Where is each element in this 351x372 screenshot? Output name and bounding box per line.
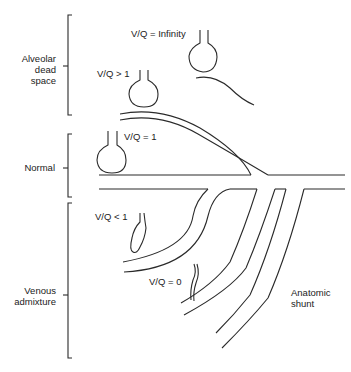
capillary-venous-admixture <box>123 189 230 272</box>
label-line: admixture <box>4 296 56 307</box>
vq-greater-label: V/Q > 1 <box>97 68 129 79</box>
vq-equal-one-label: V/Q = 1 <box>124 131 156 142</box>
label-line: Anatomic <box>291 287 331 298</box>
capillary-normal <box>99 175 345 189</box>
bracket-alveolar <box>63 15 72 115</box>
bracket-normal <box>63 134 72 197</box>
vq-infinity-label: V/Q = Infinity <box>131 28 186 39</box>
anatomic-shunt-vessel <box>216 189 304 348</box>
label-line: dead <box>10 64 56 75</box>
label-venous-admixture: Venous admixture <box>4 285 56 307</box>
alveolus-vq-greater-icon <box>129 70 158 107</box>
anatomic-shunt-label: Anatomic shunt <box>291 287 331 309</box>
label-line: Venous <box>4 285 56 296</box>
alveolus-vq-less-icon <box>131 213 146 252</box>
alveolus-vq-zero-icon <box>191 264 199 301</box>
label-line: shunt <box>291 298 331 309</box>
bracket-venous <box>63 203 72 358</box>
label-line: Alveolar <box>10 53 56 64</box>
capillary-dead-space <box>120 112 268 175</box>
alveolus-vq-infinity-icon <box>189 30 254 105</box>
label-normal: Normal <box>10 162 55 173</box>
vq-less-label: V/Q < 1 <box>95 211 127 222</box>
label-alveolar-dead-space: Alveolar dead space <box>10 53 56 86</box>
label-line: Normal <box>10 162 55 173</box>
vq-zero-label: V/Q = 0 <box>149 276 181 287</box>
alveolus-vq-normal-icon <box>97 131 126 173</box>
label-line: space <box>10 75 56 86</box>
